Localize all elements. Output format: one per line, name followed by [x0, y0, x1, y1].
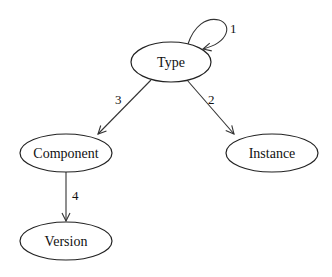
node-version[interactable]: Version: [20, 222, 112, 260]
node-label-version: Version: [45, 234, 88, 249]
node-type[interactable]: Type: [131, 42, 211, 82]
edge-type-to-type: 1: [188, 19, 237, 49]
node-component[interactable]: Component: [20, 134, 112, 172]
diagram-canvas: 1 2 3 4 Type Component Instance Version: [0, 0, 332, 277]
edge-type-to-instance: 2: [187, 80, 234, 134]
edge-label-1: 1: [230, 21, 237, 36]
edge-label-2: 2: [208, 92, 215, 107]
node-label-instance: Instance: [249, 146, 296, 161]
node-instance[interactable]: Instance: [226, 134, 318, 172]
edge-type-to-component: 3: [98, 80, 151, 134]
edge-label-3: 3: [115, 92, 122, 107]
node-label-component: Component: [33, 146, 98, 161]
edge-label-4: 4: [72, 188, 79, 203]
edge-component-to-version: 4: [66, 172, 79, 221]
node-label-type: Type: [157, 55, 185, 70]
